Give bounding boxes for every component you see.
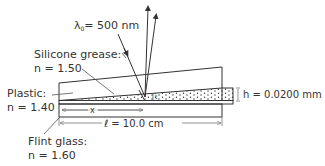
svg-text:n = 1.50: n = 1.50 (34, 62, 82, 75)
wavelength-label: λ0= 500 nm (74, 19, 139, 32)
x-dimension: x (62, 105, 143, 115)
flint-glass-plate (59, 104, 222, 117)
incident-ray-head (124, 48, 127, 54)
svg-text:ℓ = 10.0 cm: ℓ = 10.0 cm (104, 118, 164, 129)
svg-text:Plastic:: Plastic: (7, 87, 46, 100)
svg-text:x: x (90, 106, 95, 115)
svg-text:n = 1.40: n = 1.40 (7, 101, 55, 114)
flint-glass-label: Flint glass: n = 1.60 (28, 117, 87, 162)
svg-text:Silicone grease:: Silicone grease: (34, 48, 121, 61)
svg-text:h = 0.0200 mm: h = 0.0200 mm (243, 89, 322, 100)
svg-text:Flint glass:: Flint glass: (28, 135, 87, 148)
thin-film-wedge-diagram: t x ℓ = 10.0 cm h = 0.0200 mm λ0= 500 nm… (0, 0, 325, 166)
length-dimension: ℓ = 10.0 cm (59, 118, 222, 129)
silicone-pointer (122, 53, 126, 58)
incident-ray (118, 34, 145, 97)
svg-text:n = 1.60: n = 1.60 (28, 149, 76, 162)
silicone-label: Silicone grease: n = 1.50 (34, 48, 121, 94)
svg-text:λ0= 500 nm: λ0= 500 nm (74, 19, 139, 32)
plastic-layer (59, 101, 233, 105)
height-dimension: h = 0.0200 mm (236, 88, 322, 101)
